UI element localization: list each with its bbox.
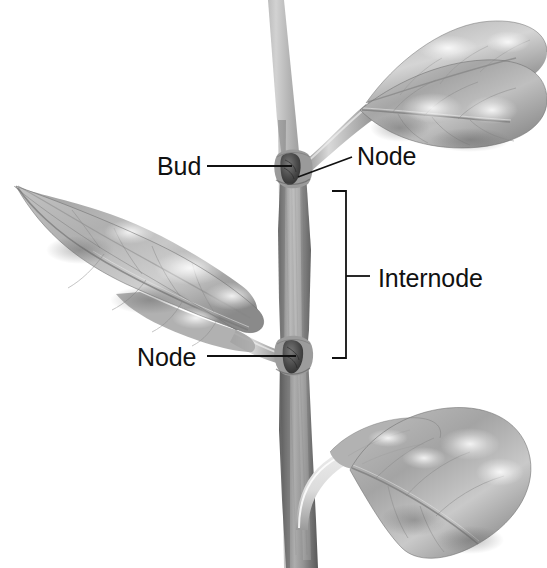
internode-bracket bbox=[332, 191, 370, 358]
lower-right-leaf bbox=[296, 407, 531, 558]
plant-anatomy-diagram: Bud Node Node Internode bbox=[0, 0, 547, 568]
label-bud: Bud bbox=[157, 154, 201, 179]
label-internode: Internode bbox=[378, 266, 483, 291]
label-node-upper: Node bbox=[357, 144, 416, 169]
upper-right-leaf bbox=[296, 21, 547, 176]
label-node-lower: Node bbox=[137, 345, 196, 370]
left-leaf bbox=[14, 186, 283, 364]
axillary-bud bbox=[274, 150, 312, 189]
